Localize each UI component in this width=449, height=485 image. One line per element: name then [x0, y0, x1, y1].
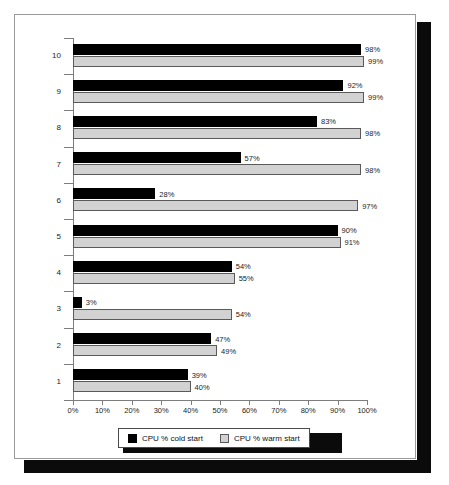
bar-value-label: 99% — [364, 93, 383, 102]
legend-label: CPU % cold start — [142, 434, 203, 443]
page-drop-shadow-bottom — [24, 460, 431, 473]
bar-row: 57% — [73, 152, 367, 163]
legend-swatch-cold-icon — [128, 434, 137, 443]
value-axis-tick-label: 30% — [154, 406, 169, 415]
value-axis-tick-label: 10% — [95, 406, 110, 415]
value-axis-tick — [338, 401, 339, 405]
category-group: 454%55% — [0, 255, 449, 291]
value-axis-tick-label: 100% — [357, 406, 376, 415]
bar-row: 54% — [73, 309, 367, 320]
category-axis-tick — [64, 364, 73, 365]
bar-row: 90% — [73, 225, 367, 236]
value-axis-tick-label: 0% — [68, 406, 79, 415]
category-axis-tick — [64, 400, 73, 401]
value-axis-tick-label: 20% — [124, 406, 139, 415]
category-axis-label: 7 — [31, 160, 61, 169]
category-group: 139%40% — [0, 364, 449, 400]
category-group: 883%98% — [0, 110, 449, 146]
value-axis-tick-label: 60% — [242, 406, 257, 415]
bar-value-label: 92% — [343, 81, 362, 90]
bar-value-label: 83% — [317, 117, 336, 126]
bar-row: 54% — [73, 261, 367, 272]
value-axis-tick — [102, 401, 103, 405]
bar-row: 98% — [73, 44, 367, 55]
bar-value-label: 40% — [191, 382, 210, 391]
bar-row: 92% — [73, 80, 367, 91]
value-axis-tick — [367, 401, 368, 405]
bar-cold-start — [73, 369, 188, 380]
category-axis-label: 9 — [31, 87, 61, 96]
category-axis-label: 1 — [31, 377, 61, 386]
bar-warm-start — [73, 309, 232, 320]
bar-cold-start — [73, 44, 361, 55]
bar-cold-start — [73, 297, 82, 308]
bar-row: 28% — [73, 188, 367, 199]
bar-warm-start — [73, 381, 191, 392]
value-axis-tick — [73, 401, 74, 405]
bar-value-label: 90% — [338, 226, 357, 235]
bar-value-label: 47% — [211, 334, 230, 343]
bar-value-label: 54% — [232, 262, 251, 271]
category-group: 590%91% — [0, 219, 449, 255]
category-axis-tick — [64, 110, 73, 111]
category-group: 992%99% — [0, 74, 449, 110]
bar-row: 97% — [73, 200, 367, 211]
bar-warm-start — [73, 92, 364, 103]
bar-row: 98% — [73, 128, 367, 139]
category-axis-label: 2 — [31, 341, 61, 350]
bar-row: 98% — [73, 164, 367, 175]
bar-cold-start — [73, 152, 241, 163]
bar-row: 83% — [73, 116, 367, 127]
category-axis-tick — [64, 219, 73, 220]
bar-cold-start — [73, 188, 155, 199]
bar-cold-start — [73, 116, 317, 127]
category-axis-tick — [64, 38, 73, 39]
category-axis-label: 6 — [31, 196, 61, 205]
value-axis-tick — [308, 401, 309, 405]
category-axis-label: 8 — [31, 123, 61, 132]
bar-cold-start — [73, 333, 211, 344]
chart-legend: CPU % cold startCPU % warm start — [118, 428, 310, 448]
value-axis-tick-label: 50% — [212, 406, 227, 415]
value-axis-tick-label: 90% — [330, 406, 345, 415]
bar-value-label: 97% — [358, 201, 377, 210]
bar-warm-start — [73, 200, 358, 211]
bar-row: 99% — [73, 92, 367, 103]
category-axis-tick — [64, 183, 73, 184]
category-group: 757%98% — [0, 147, 449, 183]
legend-item: CPU % warm start — [220, 434, 300, 443]
category-axis-label: 3 — [31, 304, 61, 313]
bar-value-label: 3% — [82, 298, 97, 307]
bar-cold-start — [73, 225, 338, 236]
value-axis-tick — [249, 401, 250, 405]
legend-swatch-warm-icon — [220, 434, 229, 443]
bar-value-label: 49% — [217, 346, 236, 355]
bar-value-label: 28% — [155, 189, 174, 198]
category-axis-tick — [64, 255, 73, 256]
bar-warm-start — [73, 273, 235, 284]
legend-label: CPU % warm start — [234, 434, 300, 443]
bar-row: 91% — [73, 237, 367, 248]
bar-warm-start — [73, 164, 361, 175]
bar-row: 55% — [73, 273, 367, 284]
category-axis-tick — [64, 147, 73, 148]
bar-row: 99% — [73, 56, 367, 67]
bar-value-label: 54% — [232, 310, 251, 319]
category-axis-label: 5 — [31, 232, 61, 241]
value-axis-tick — [191, 401, 192, 405]
bar-value-label: 91% — [341, 238, 360, 247]
category-group: 1098%99% — [0, 38, 449, 74]
value-axis-tick — [279, 401, 280, 405]
bar-row: 47% — [73, 333, 367, 344]
legend-item: CPU % cold start — [128, 434, 203, 443]
bar-value-label: 57% — [241, 153, 260, 162]
bar-cold-start — [73, 261, 232, 272]
bar-value-label: 98% — [361, 129, 380, 138]
category-axis-label: 10 — [31, 51, 61, 60]
category-axis-label: 4 — [31, 268, 61, 277]
bar-warm-start — [73, 56, 364, 67]
category-group: 247%49% — [0, 328, 449, 364]
bar-row: 49% — [73, 345, 367, 356]
value-axis-tick — [220, 401, 221, 405]
value-axis-tick-label: 70% — [271, 406, 286, 415]
